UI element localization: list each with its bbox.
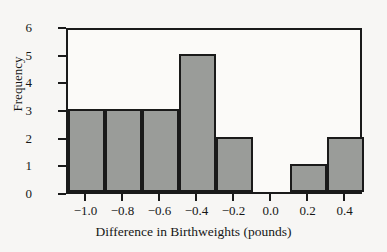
y-axis-tick — [58, 27, 66, 29]
y-axis-title: Frequency — [10, 49, 26, 119]
y-axis-tick-label: 2 — [26, 132, 33, 145]
x-axis-tick — [269, 194, 271, 201]
x-axis-tick — [232, 194, 234, 201]
histogram-bar — [327, 137, 364, 192]
x-axis-tick — [306, 194, 308, 201]
x-axis-tick-label: 0.0 — [251, 203, 291, 219]
x-axis-tick — [84, 194, 86, 201]
x-axis-tick-label: 0.2 — [288, 203, 328, 219]
histogram-bar — [216, 137, 253, 192]
x-axis-tick-label: −0.2 — [214, 203, 254, 219]
y-axis-tick — [58, 193, 66, 195]
histogram-bar — [142, 109, 179, 192]
x-axis-tick-label: −0.8 — [103, 203, 143, 219]
x-axis-tick-label: −0.6 — [140, 203, 180, 219]
x-axis-tick — [158, 194, 160, 201]
bars-group — [68, 30, 360, 192]
x-axis-tick — [343, 194, 345, 201]
y-axis-tick — [58, 55, 66, 57]
histogram-bar — [179, 54, 216, 192]
plot-area — [66, 28, 362, 194]
y-axis-tick — [58, 82, 66, 84]
y-axis-tick-label: 3 — [26, 104, 33, 117]
y-axis-tick — [58, 165, 66, 167]
x-axis-tick — [195, 194, 197, 201]
y-axis-tick-label: 4 — [26, 76, 33, 89]
x-axis-tick-label: 0.4 — [325, 203, 365, 219]
x-axis-tick-label: −1.0 — [66, 203, 106, 219]
histogram-bar — [68, 109, 105, 192]
y-axis-tick — [58, 138, 66, 140]
x-axis-tick — [121, 194, 123, 201]
y-axis-tick-label: 1 — [26, 159, 33, 172]
y-axis-tick-label: 5 — [26, 49, 33, 62]
y-axis: Frequency 0123456 — [0, 0, 66, 252]
histogram-bar — [290, 164, 327, 192]
y-axis-tick — [58, 110, 66, 112]
histogram-bar — [105, 109, 142, 192]
x-axis-title: Difference in Birthweights (pounds) — [0, 224, 387, 240]
x-axis-tick-label: −0.4 — [177, 203, 217, 219]
y-axis-tick-label: 6 — [26, 21, 33, 34]
y-axis-tick-label: 0 — [26, 187, 33, 200]
histogram-figure: Frequency 0123456 Difference in Birthwei… — [0, 0, 387, 252]
